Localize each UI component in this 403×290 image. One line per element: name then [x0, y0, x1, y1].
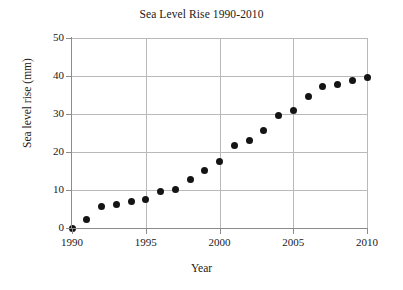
data-point [305, 93, 312, 100]
data-point [157, 188, 164, 195]
y-axis-title: Sea level rise (mm) [21, 3, 33, 203]
x-axis-tick-label: 1990 [48, 236, 96, 248]
y-axis-tick [66, 114, 72, 115]
y-axis-tick [66, 76, 72, 77]
data-point [113, 201, 120, 208]
data-point [260, 127, 267, 134]
y-axis-tick [66, 190, 72, 191]
x-axis-tick-label: 2000 [196, 236, 244, 248]
data-point [275, 112, 282, 119]
y-axis-line [71, 37, 72, 229]
data-point [290, 107, 297, 114]
plot-area [72, 38, 367, 228]
x-axis-tick-label: 2005 [269, 236, 317, 248]
gridline-vertical [293, 38, 294, 228]
x-axis-title: Year [0, 262, 403, 274]
y-axis-tick-label: 0 [24, 222, 64, 233]
x-axis-tick [146, 229, 147, 234]
y-axis-tick [66, 38, 72, 39]
data-point [349, 77, 356, 84]
data-point [128, 198, 135, 205]
x-axis-tick-label: 2010 [343, 236, 391, 248]
x-axis-tick [293, 229, 294, 234]
data-point [364, 74, 371, 81]
data-point [142, 196, 149, 203]
gridline-vertical [220, 38, 221, 228]
data-point [83, 216, 90, 223]
x-axis-tick [367, 229, 368, 234]
x-axis-tick [220, 229, 221, 234]
data-point [246, 137, 253, 144]
y-axis-tick [66, 152, 72, 153]
gridline-vertical [367, 38, 368, 228]
data-point [231, 142, 238, 149]
data-point [319, 83, 326, 90]
data-point [98, 203, 105, 210]
data-point [187, 176, 194, 183]
x-axis-tick-label: 1995 [122, 236, 170, 248]
data-point [201, 167, 208, 174]
data-point [334, 81, 341, 88]
sea-level-rise-scatter-chart: Sea Level Rise 1990-2010 01020304050 Sea… [0, 0, 403, 290]
data-point [172, 186, 179, 193]
x-axis-tick [72, 229, 73, 234]
data-point [216, 158, 223, 165]
